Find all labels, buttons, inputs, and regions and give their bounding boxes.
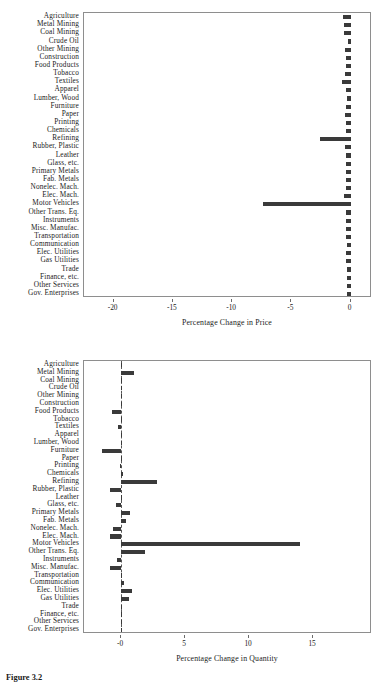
bars-layer-price	[84, 13, 370, 296]
bar-price-12	[345, 113, 350, 117]
bar-price-26	[346, 227, 351, 231]
x-tick-label: -5	[287, 303, 293, 312]
bar-price-5	[346, 56, 351, 60]
bar-quantity-23	[121, 542, 300, 546]
bar-quantity-11	[102, 449, 121, 453]
x-tick-label: 5	[182, 639, 186, 648]
bar-price-14	[346, 129, 351, 133]
x-axis-price: -20-15-10-50	[83, 299, 371, 315]
bar-price-4	[345, 48, 350, 52]
category-label: Apparel	[0, 85, 79, 93]
bar-price-18	[346, 162, 351, 166]
plot-frame-price	[83, 12, 371, 297]
bar-price-25	[346, 219, 351, 223]
bar-quantity-34	[121, 628, 122, 632]
bar-quantity-6	[112, 410, 121, 414]
bar-price-23	[263, 202, 351, 206]
x-tick-label: 0	[348, 303, 352, 312]
bar-quantity-31	[121, 605, 122, 609]
category-label: Coal Mining	[0, 28, 79, 36]
bar-quantity-33	[121, 620, 122, 624]
bar-quantity-8	[118, 425, 121, 429]
bar-quantity-29	[121, 589, 132, 593]
bar-quantity-20	[121, 519, 126, 523]
figure-3-2: AgricultureMetal MiningCoal MiningCrude …	[0, 0, 381, 684]
bar-price-9	[346, 88, 351, 92]
bar-price-1	[344, 23, 351, 27]
chart-panel-price: AgricultureMetal MiningCoal MiningCrude …	[0, 0, 381, 348]
bar-quantity-25	[117, 558, 121, 562]
x-axis-quantity: -051015	[83, 635, 371, 651]
bar-price-27	[346, 235, 351, 239]
x-tick-label: 15	[308, 639, 315, 648]
bar-quantity-15	[121, 480, 157, 484]
bar-quantity-17	[121, 495, 122, 499]
bar-quantity-19	[121, 511, 130, 515]
bar-quantity-16	[110, 488, 122, 492]
bar-quantity-3	[121, 386, 122, 390]
bar-price-7	[345, 72, 351, 76]
bar-quantity-14	[121, 472, 123, 476]
bar-price-3	[348, 39, 351, 43]
plot-frame-quantity	[83, 360, 371, 633]
x-axis-label-price: Percentage Change in Price	[83, 318, 371, 328]
bar-price-11	[346, 105, 351, 109]
bar-quantity-26	[110, 566, 121, 570]
bar-quantity-28	[121, 581, 124, 585]
bar-price-15	[320, 137, 350, 141]
x-tick-label: -0	[117, 639, 123, 648]
bar-price-21	[346, 186, 351, 190]
x-tick-mark	[184, 635, 185, 638]
bar-quantity-9	[121, 433, 122, 437]
bar-quantity-13	[120, 464, 121, 468]
bar-price-22	[344, 194, 351, 198]
x-tick-label: 10	[244, 639, 251, 648]
bar-quantity-18	[116, 503, 121, 507]
bar-price-34	[347, 292, 351, 296]
bar-price-31	[347, 267, 351, 271]
bar-quantity-0	[121, 363, 122, 367]
category-axis-price: AgricultureMetal MiningCoal MiningCrude …	[0, 12, 79, 297]
bar-price-24	[346, 210, 351, 214]
bar-price-17	[346, 153, 351, 157]
bar-price-20	[346, 178, 351, 182]
bar-quantity-2	[121, 378, 122, 382]
category-label: Gas Utilities	[0, 256, 79, 264]
bar-quantity-24	[121, 550, 145, 554]
bar-quantity-7	[121, 417, 122, 421]
x-tick-mark	[113, 299, 114, 302]
bar-quantity-30	[121, 597, 129, 601]
bar-price-30	[346, 259, 351, 263]
category-label: Motor Vehicles	[0, 199, 79, 207]
bar-quantity-32	[121, 612, 122, 616]
bar-price-19	[346, 170, 351, 174]
bar-price-2	[344, 31, 351, 35]
x-tick-label: -15	[167, 303, 177, 312]
x-tick-label: -20	[108, 303, 118, 312]
category-label: Gov. Enterprises	[0, 289, 79, 297]
bar-price-8	[342, 80, 351, 84]
x-tick-mark	[350, 299, 351, 302]
x-tick-mark	[290, 299, 291, 302]
bar-price-29	[346, 251, 351, 255]
bar-price-10	[347, 96, 351, 100]
chart-panel-quantity: AgricultureMetal MiningCoal MiningCrude …	[0, 348, 381, 684]
bar-quantity-5	[121, 402, 122, 406]
bar-price-0	[343, 15, 350, 19]
x-tick-mark	[172, 299, 173, 302]
bar-quantity-21	[113, 527, 121, 531]
x-tick-mark	[231, 299, 232, 302]
x-axis-label-quantity: Percentage Change in Quantity	[83, 654, 371, 664]
bar-quantity-27	[121, 573, 122, 577]
bar-price-33	[347, 284, 351, 288]
x-tick-label: -10	[226, 303, 236, 312]
x-tick-mark	[248, 635, 249, 638]
category-axis-quantity: AgricultureMetal MiningCoal MiningCrude …	[0, 360, 79, 633]
figure-caption: Figure 3.2	[6, 672, 306, 683]
bar-quantity-4	[121, 394, 122, 398]
bar-price-32	[347, 276, 351, 280]
x-tick-mark	[312, 635, 313, 638]
category-label: Rubber, Plastic	[0, 142, 79, 150]
bar-price-6	[346, 64, 351, 68]
bar-price-28	[347, 243, 351, 247]
